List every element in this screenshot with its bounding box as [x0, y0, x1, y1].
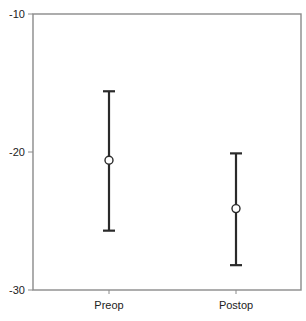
plot-area-border: [33, 14, 301, 290]
x-axis: PreopPostop: [94, 290, 253, 311]
mean-marker-icon: [105, 156, 113, 164]
x-category-label: Postop: [219, 299, 253, 311]
y-tick-label: -30: [9, 284, 25, 296]
mean-marker-icon: [232, 205, 240, 213]
plot-frame: [33, 14, 301, 290]
error-bar-chart: -10-20-30 PreopPostop: [0, 0, 306, 321]
x-category-label: Preop: [94, 299, 123, 311]
y-tick-label: -10: [9, 8, 25, 20]
error-bar-preop: [103, 91, 115, 230]
y-tick-label: -20: [9, 146, 25, 158]
y-axis: -10-20-30: [9, 8, 33, 296]
error-bar-postop: [230, 153, 242, 265]
error-bar-series: [103, 91, 242, 265]
